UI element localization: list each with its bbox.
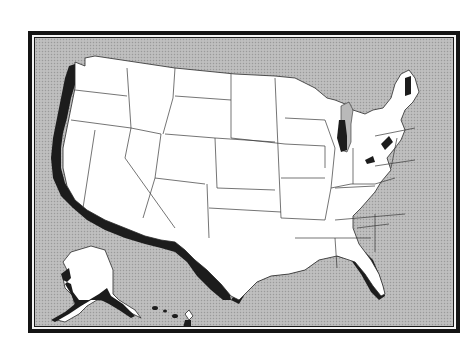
us-map — [35, 38, 453, 326]
map-panel — [35, 38, 453, 326]
maine-highlight — [405, 76, 411, 96]
lower48-land — [63, 56, 419, 300]
frame-mat — [32, 35, 456, 329]
hawaii-islands — [152, 306, 193, 326]
frame-inner-line — [34, 37, 454, 327]
map-frame — [28, 31, 460, 333]
